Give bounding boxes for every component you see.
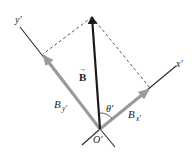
angle-label: θ′ [106, 103, 114, 114]
component-y-label: B [54, 98, 61, 110]
vector-diagram: y′ x′ → B B y′ B x′ θ′ O′ [0, 0, 196, 156]
vector-B [92, 17, 100, 129]
vector-B-label: B [79, 71, 87, 83]
x-prime-axis-label: x′ [175, 58, 183, 69]
origin-label: O′ [93, 134, 103, 145]
component-vector-y [44, 56, 100, 129]
y-prime-axis-label: y′ [14, 14, 22, 25]
projection-line-x [92, 17, 150, 88]
component-y-subscript: y′ [61, 104, 67, 113]
projection-line-y [43, 17, 92, 54]
component-x-label: B [128, 108, 135, 120]
component-x-subscript: x′ [135, 114, 141, 123]
